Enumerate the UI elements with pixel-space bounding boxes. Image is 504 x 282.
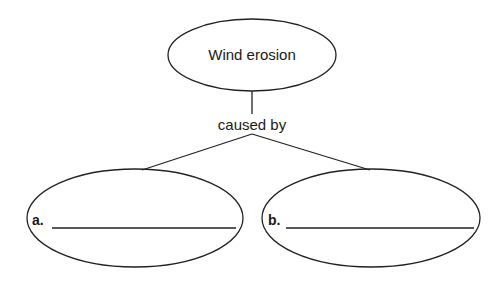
- child-b-label: b.: [268, 212, 280, 228]
- child-node-a-ellipse: [27, 169, 243, 267]
- diagram-canvas: [0, 0, 504, 282]
- connector-label: caused by: [202, 116, 302, 133]
- branch-line-right: [252, 134, 370, 170]
- branch-line-left: [142, 134, 252, 170]
- top-node-label: Wind erosion: [196, 46, 308, 63]
- child-node-b-ellipse: [262, 169, 480, 267]
- child-a-label: a.: [32, 212, 44, 228]
